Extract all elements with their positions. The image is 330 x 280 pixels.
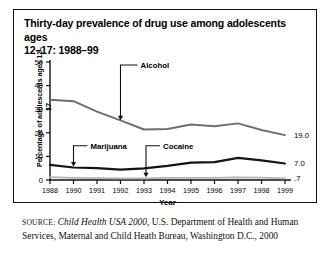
marijuana-arrowhead [71,162,76,167]
cocaine-arrowhead [143,173,148,178]
x-tick-label: 1990 [66,186,82,195]
axis-lines [50,60,291,180]
x-tick-label: 1999 [277,186,293,195]
x-tick-label: 1998 [254,186,270,195]
source-title: Child Health USA 2000 [58,217,147,227]
annotation-alcohol: Alcohol [141,61,170,70]
series-end-label-alcohol: 19.0 [294,131,310,140]
x-tick-label: 1992 [113,186,129,195]
x-tick-label: 1997 [230,186,246,195]
annotation-marijuana: Marijuana [91,142,128,151]
series-line-marijuana [50,158,285,170]
cocaine-leader-line [146,146,160,175]
plot-area-wrapper: Percentage of adolescents ages 12–17 010… [13,46,317,206]
source-note: SOURCE: Child Health USA 2000, U.S. Depa… [22,216,312,242]
series-end-label-marijuana: 7.0 [294,159,306,168]
marijuana-leader-line [74,146,88,164]
series-line-alcohol [50,100,285,135]
x-axis-label: Year [159,198,175,206]
x-tick-label: 1988 [42,186,58,195]
y-axis-label: Percentage of adolescents ages 12–17 [35,46,53,168]
x-tick-label: 1996 [207,186,223,195]
series-end-label-cocaine: .7 [294,174,301,183]
annotation-cocaine: Cocaine [163,142,194,151]
alcohol-leader-line [121,65,138,117]
x-tick-label: 1995 [183,186,199,195]
x-tick-label: 1993 [136,186,152,195]
x-tick-label: 1994 [160,186,176,195]
source-label: SOURCE: [22,218,55,227]
y-tick-label: 0 [39,176,43,185]
series-line-cocaine [50,177,285,178]
line-chart: 0102030405019881990199119921993199419951… [13,46,317,206]
x-tick-label: 1991 [89,186,105,195]
figure-panel: Thirty-day prevalence of drug use among … [0,0,330,280]
figure-title-line-1: Thirty-day prevalence of drug use among … [24,17,304,44]
